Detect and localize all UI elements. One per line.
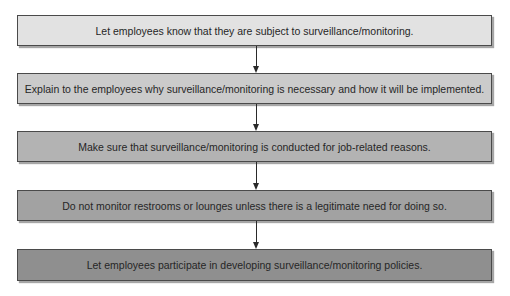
step-4-box: Do not monitor restrooms or lounges unle… [17, 190, 492, 221]
step-3-box: Make sure that surveillance/monitoring i… [17, 131, 492, 162]
step-2-box: Explain to the employees why surveillanc… [17, 73, 492, 104]
step-2-label: Explain to the employees why surveillanc… [25, 83, 484, 95]
step-5-box: Let employees participate in developing … [17, 249, 492, 281]
step-3-label: Make sure that surveillance/monitoring i… [78, 141, 431, 153]
down-arrow-icon [256, 221, 258, 249]
arrow-head [253, 66, 259, 73]
arrow-head [253, 242, 259, 249]
down-arrow-icon [256, 104, 258, 131]
arrow-head [253, 183, 259, 190]
surveillance-guidelines-flowchart: Let employees know that they are subject… [0, 0, 510, 296]
arrow-shaft [256, 104, 257, 125]
step-1-box: Let employees know that they are subject… [17, 15, 492, 46]
arrow-head [253, 124, 259, 131]
step-4-label: Do not monitor restrooms or lounges unle… [62, 200, 447, 212]
arrow-shaft [256, 221, 257, 243]
arrow-shaft [256, 46, 257, 67]
step-5-label: Let employees participate in developing … [87, 259, 423, 271]
down-arrow-icon [256, 46, 258, 73]
arrow-shaft [256, 162, 257, 184]
down-arrow-icon [256, 162, 258, 190]
step-1-label: Let employees know that they are subject… [95, 25, 413, 37]
